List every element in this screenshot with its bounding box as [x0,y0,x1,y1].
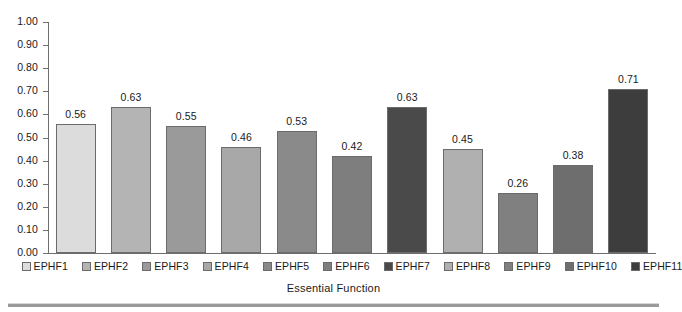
bar-value-label: 0.45 [452,133,473,146]
y-axis-tick-label: 0.60 [17,107,38,120]
legend-item[interactable]: EPHF4 [203,260,249,273]
x-axis-title: Essential Function [0,281,667,295]
bar[interactable] [166,126,206,253]
y-axis-tick-label: 1.00 [17,15,38,28]
y-axis-tick-label: 0.30 [17,177,38,190]
bar[interactable] [221,147,261,253]
legend-item[interactable]: EPHF5 [263,260,309,273]
legend-swatch [444,262,453,271]
legend-label: EPHF5 [275,260,309,273]
legend-swatch [82,262,91,271]
bar[interactable] [608,89,648,253]
bar-value-label: 0.46 [231,131,252,144]
y-axis-tick-label: 0.10 [17,223,38,236]
y-axis-tick-label: 0.90 [17,38,38,51]
bottom-divider [8,303,659,307]
bar[interactable] [56,124,96,253]
legend-swatch [384,262,393,271]
y-axis-tick-label: 0.50 [17,131,38,144]
legend-swatch [323,262,332,271]
legend-item[interactable]: EPHF1 [22,260,68,273]
bar[interactable] [111,107,151,253]
bar[interactable] [443,149,483,253]
legend-swatch [263,262,272,271]
legend-item[interactable]: EPHF3 [142,260,188,273]
legend-swatch [565,262,574,271]
y-axis-tick-label: 0.40 [17,154,38,167]
bar-value-label: 0.63 [120,91,141,104]
bar[interactable] [553,165,593,253]
legend-item[interactable]: EPHF11 [631,260,682,273]
legend-label: EPHF10 [577,260,617,273]
bar-value-label: 0.63 [397,91,418,104]
bar[interactable] [387,107,427,253]
legend-label: EPHF11 [643,260,682,273]
bar-value-label: 0.53 [286,115,307,128]
legend-swatch [22,262,31,271]
legend-label: EPHF4 [215,260,249,273]
legend-swatch [142,262,151,271]
legend-item[interactable]: EPHF2 [82,260,128,273]
bar-value-label: 0.56 [65,108,86,121]
legend-swatch [631,262,640,271]
bar-value-label: 0.55 [176,110,197,123]
y-axis-tick-label: 0.80 [17,61,38,74]
y-axis-tick-label: 0.20 [17,200,38,213]
legend-swatch [504,262,513,271]
legend-item[interactable]: EPHF9 [504,260,550,273]
legend-label: EPHF8 [456,260,490,273]
bar-value-label: 0.71 [618,73,639,86]
legend-swatch [203,262,212,271]
bar-value-label: 0.38 [563,149,584,162]
legend-item[interactable]: EPHF7 [384,260,430,273]
legend-label: EPHF6 [335,260,369,273]
x-axis-line [48,253,656,254]
legend-label: EPHF9 [516,260,550,273]
y-axis-tick: 0.00 [43,253,48,254]
bar[interactable] [332,156,372,253]
y-axis-tick-label: 0.70 [17,84,38,97]
legend-item[interactable]: EPHF8 [444,260,490,273]
bar-series: 0.560.630.550.460.530.420.630.450.260.38… [48,22,656,253]
legend-label: EPHF7 [396,260,430,273]
bar[interactable] [498,193,538,253]
legend-item[interactable]: EPHF10 [565,260,617,273]
bar-value-label: 0.26 [507,177,528,190]
bar[interactable] [277,131,317,253]
bar-value-label: 0.42 [342,140,363,153]
legend-label: EPHF1 [34,260,68,273]
legend-item[interactable]: EPHF6 [323,260,369,273]
legend-label: EPHF2 [94,260,128,273]
legend-label: EPHF3 [154,260,188,273]
plot-area: 1.000.900.800.700.600.500.400.300.200.10… [48,22,656,253]
chart-legend: EPHF1EPHF2EPHF3EPHF4EPHF5EPHF6EPHF7EPHF8… [48,258,656,274]
y-axis-tick-label: 0.00 [17,246,38,259]
